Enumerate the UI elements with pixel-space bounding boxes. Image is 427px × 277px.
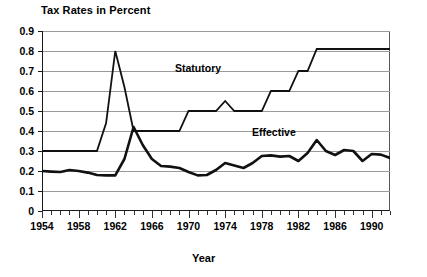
- x-axis-tick-minor: [326, 211, 327, 215]
- x-axis-tick-minor: [207, 211, 208, 215]
- x-axis-tick-major: [42, 211, 43, 218]
- x-axis-tick-minor: [198, 211, 199, 215]
- x-axis-tick-minor: [124, 211, 125, 215]
- series-lines: [42, 31, 390, 211]
- x-axis-tick-minor: [280, 211, 281, 215]
- y-axis-label: 0.1: [4, 186, 34, 196]
- y-axis-tick: [38, 51, 43, 52]
- x-axis-tick-minor: [179, 211, 180, 215]
- y-axis-label: 0.5: [4, 106, 34, 116]
- x-axis-tick-minor: [134, 211, 135, 215]
- x-axis-tick-minor: [253, 211, 254, 215]
- x-axis-tick-minor: [69, 211, 70, 215]
- x-axis-tick-minor: [308, 211, 309, 215]
- y-axis-tick: [38, 71, 43, 72]
- y-axis-label: 0.4: [4, 126, 34, 136]
- x-axis-tick-minor: [390, 211, 391, 215]
- chart-figure: Tax Rates in Percent 0.90.80.70.60.50.40…: [0, 0, 427, 277]
- series-label-effective: Effective: [252, 126, 296, 138]
- x-axis-tick-minor: [161, 211, 162, 215]
- x-axis-tick-major: [298, 211, 299, 218]
- plot-area: [42, 31, 390, 211]
- x-axis-tick-minor: [143, 211, 144, 215]
- y-axis-label: 0.7: [4, 66, 34, 76]
- y-axis-tick: [38, 151, 43, 152]
- x-axis-label: 1990: [350, 221, 394, 232]
- y-axis-tick: [38, 31, 43, 32]
- x-axis-tick-minor: [51, 211, 52, 215]
- y-axis-label: 0.9: [4, 26, 34, 36]
- x-axis-tick-major: [152, 211, 153, 218]
- x-axis-tick-major: [79, 211, 80, 218]
- x-axis-tick-minor: [216, 211, 217, 215]
- x-axis-tick-minor: [363, 211, 364, 215]
- y-axis-tick: [38, 111, 43, 112]
- y-axis-label: 0.6: [4, 86, 34, 96]
- x-axis-tick-minor: [170, 211, 171, 215]
- y-axis-label: 0.3: [4, 146, 34, 156]
- x-axis-tick-minor: [97, 211, 98, 215]
- x-axis-tick-minor: [271, 211, 272, 215]
- x-axis-tick-minor: [381, 211, 382, 215]
- x-axis-tick-minor: [289, 211, 290, 215]
- x-axis-tick-minor: [106, 211, 107, 215]
- x-axis-tick-major: [262, 211, 263, 218]
- x-axis-tick-minor: [317, 211, 318, 215]
- y-axis-tick: [38, 91, 43, 92]
- x-axis-tick-minor: [234, 211, 235, 215]
- x-axis-tick-minor: [243, 211, 244, 215]
- y-axis-tick: [38, 171, 43, 172]
- x-axis-tick-minor: [353, 211, 354, 215]
- chart-title: Tax Rates in Percent: [41, 4, 150, 16]
- y-axis-label: 0: [4, 206, 34, 216]
- x-axis-tick-major: [225, 211, 226, 218]
- series-label-statutory: Statutory: [175, 62, 221, 74]
- x-axis-tick-minor: [344, 211, 345, 215]
- x-axis-tick-major: [115, 211, 116, 218]
- y-axis-label: 0.8: [4, 46, 34, 56]
- x-axis-tick-major: [372, 211, 373, 218]
- y-axis-tick: [38, 131, 43, 132]
- x-axis-tick-minor: [60, 211, 61, 215]
- y-axis-label: 0.2: [4, 166, 34, 176]
- y-axis-tick: [38, 191, 43, 192]
- x-axis-tick-minor: [88, 211, 89, 215]
- x-axis-tick-major: [335, 211, 336, 218]
- x-axis-title: Year: [192, 252, 215, 264]
- x-axis-tick-major: [189, 211, 190, 218]
